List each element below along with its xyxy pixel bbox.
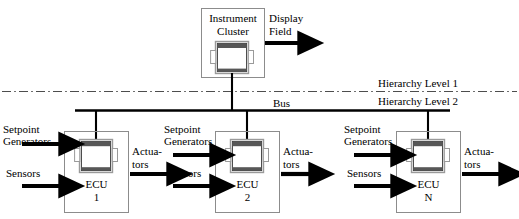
ecu-n-actuators-label-line1: Actua-: [464, 145, 494, 158]
ecu-1-actuators-label-line1: Actua-: [132, 145, 162, 158]
ecu-1-setpoint-label-line2: Generators: [3, 135, 51, 148]
ecu-1-setpoint-label-line1: Setpoint: [3, 123, 40, 136]
ecu-2-name-line1: ECU: [215, 178, 280, 191]
hierarchy-level-2-label: Hierarchy Level 2: [378, 95, 458, 108]
ecu-2-actuators-label-line1: Actua-: [283, 145, 313, 158]
ecu-n-actuators-label-line2: tors: [464, 158, 481, 171]
ecu-n-setpoint-label-line2: Generators: [344, 135, 392, 148]
ecu-2-setpoint-label-line1: Setpoint: [164, 123, 201, 136]
hierarchy-level-1-label: Hierarchy Level 1: [378, 77, 458, 90]
ecu-1-name-line1: ECU: [64, 178, 129, 191]
bus-label: Bus: [273, 97, 290, 110]
ecu-1-actuators-label-line2: tors: [132, 158, 149, 171]
ecu-2-sensors-label: Sensors: [167, 167, 201, 180]
ecu-1-sensors-label: Sensors: [6, 167, 40, 180]
ecu-n-device-icon: [407, 140, 450, 173]
display-field-label-line2: Field: [269, 25, 292, 38]
ecu-n-setpoint-label-line1: Setpoint: [344, 123, 381, 136]
diagram-canvas: Instrument Cluster Display Field Hierarc…: [0, 0, 519, 219]
ecu-1-device-icon: [75, 140, 118, 173]
instrument-cluster-title-line1: Instrument: [201, 12, 265, 25]
ecu-1-name-line2: 1: [64, 191, 129, 204]
ecu-n-name-line2: N: [396, 191, 461, 204]
ecu-2-name-line2: 2: [215, 191, 280, 204]
ecu-2-device-icon: [226, 140, 269, 173]
instrument-cluster-device-icon: [211, 42, 254, 74]
ecu-2-setpoint-label-line2: Generators: [164, 135, 212, 148]
ecu-n-sensors-label: Sensors: [347, 167, 381, 180]
ecu-n-name-line1: ECU: [396, 178, 461, 191]
continuation-ellipsis: ...: [314, 165, 327, 181]
display-field-label-line1: Display: [269, 12, 303, 25]
ecu-2-actuators-label-line2: tors: [283, 158, 300, 171]
instrument-cluster-title-line2: Cluster: [201, 25, 265, 38]
